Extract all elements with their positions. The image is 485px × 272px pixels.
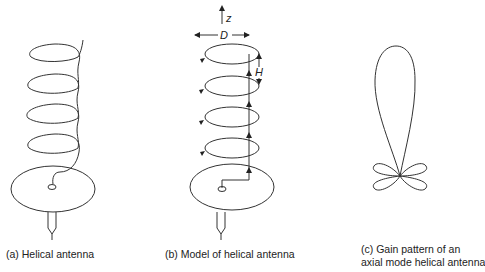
spacing-label: H bbox=[255, 66, 263, 78]
caption-c-line1: (c) Gain pattern of an bbox=[361, 243, 460, 256]
arrowheads bbox=[194, 5, 262, 173]
caption-b: (b) Model of helical antenna bbox=[165, 248, 295, 261]
diameter-label: D bbox=[220, 29, 228, 41]
caption-c-line2: axial mode helical antenna bbox=[361, 256, 485, 269]
axis-label-z: z bbox=[225, 12, 232, 24]
helical-model-drawing bbox=[190, 8, 274, 240]
caption-a: (a) Helical antenna bbox=[6, 248, 94, 261]
helical-antenna-drawing bbox=[11, 40, 95, 240]
gain-pattern-drawing bbox=[373, 46, 426, 190]
